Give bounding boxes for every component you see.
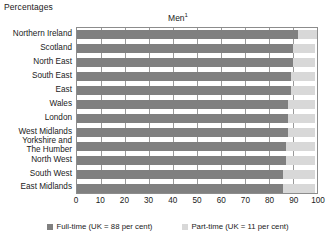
x-axis-ticks: 0102030405060708090100 xyxy=(76,196,318,208)
bar-segment-part-time xyxy=(293,58,315,67)
legend-item[interactable]: Full-time (UK = 88 per cent) xyxy=(47,222,152,231)
bar-row xyxy=(77,72,317,81)
x-axis-tick-label: 60 xyxy=(217,196,226,205)
units-label: Percentages xyxy=(4,2,53,12)
bar-segment-full-time xyxy=(77,86,291,95)
bar-segment-part-time xyxy=(291,86,315,95)
bar-row xyxy=(77,30,317,39)
x-axis-tick-label: 30 xyxy=(144,196,153,205)
y-axis-label: Wales xyxy=(0,99,72,108)
y-axis-label: East Midlands xyxy=(0,182,72,191)
x-axis-tick-label: 100 xyxy=(311,196,325,205)
legend-label: Full-time (UK = 88 per cent) xyxy=(56,222,152,231)
bar-segment-full-time xyxy=(77,44,293,53)
bar-segment-full-time xyxy=(77,156,286,165)
bar-segment-full-time xyxy=(77,58,293,67)
chart-title: Men1 xyxy=(0,12,336,23)
x-axis-tick-label: 90 xyxy=(289,196,298,205)
bar-segment-part-time xyxy=(288,100,314,109)
y-axis-label: London xyxy=(0,113,72,122)
bar-row xyxy=(77,44,317,53)
bar-segment-part-time xyxy=(286,142,315,151)
bar-segment-full-time xyxy=(77,170,283,179)
y-axis-label: South West xyxy=(0,169,72,178)
bar-row xyxy=(77,184,317,193)
chart-container: Percentages Men1 Northern IrelandScotlan… xyxy=(0,0,336,242)
y-axis-label: South East xyxy=(0,71,72,80)
x-axis-tick-label: 70 xyxy=(241,196,250,205)
legend-item[interactable]: Part-time (UK = 11 per cent) xyxy=(182,222,288,231)
bar-segment-part-time xyxy=(283,170,314,179)
bar-row xyxy=(77,86,317,95)
bar-segment-full-time xyxy=(77,30,298,39)
bar-segment-part-time xyxy=(288,114,314,123)
y-axis-label: Yorkshire and The Humber xyxy=(0,136,72,154)
x-axis-tick-label: 0 xyxy=(74,196,79,205)
bar-segment-full-time xyxy=(77,100,288,109)
bar-segment-full-time xyxy=(77,142,286,151)
plot-wrapper xyxy=(76,27,318,194)
bar-row xyxy=(77,114,317,123)
y-axis-label: North East xyxy=(0,57,72,66)
x-axis-tick-label: 80 xyxy=(265,196,274,205)
bar-row xyxy=(77,100,317,109)
bar-row xyxy=(77,128,317,137)
bar-row xyxy=(77,58,317,67)
legend-label: Part-time (UK = 11 per cent) xyxy=(191,222,288,231)
bar-segment-full-time xyxy=(77,128,288,137)
legend-swatch-part-time xyxy=(182,224,188,230)
bar-rows xyxy=(77,28,317,193)
bar-segment-part-time xyxy=(286,156,315,165)
chart-legend: Full-time (UK = 88 per cent)Part-time (U… xyxy=(0,222,336,231)
bar-segment-part-time xyxy=(288,128,314,137)
bar-segment-full-time xyxy=(77,184,283,193)
chart-title-footnote: 1 xyxy=(185,12,188,18)
y-axis-label: West Midlands xyxy=(0,127,72,136)
chart-title-text: Men xyxy=(168,13,185,23)
bar-row xyxy=(77,156,317,165)
x-axis-tick-label: 40 xyxy=(168,196,177,205)
x-axis-tick-label: 20 xyxy=(120,196,129,205)
bar-segment-part-time xyxy=(291,72,315,81)
bar-segment-full-time xyxy=(77,72,291,81)
y-axis-labels: Northern IrelandScotlandNorth EastSouth … xyxy=(0,27,72,194)
legend-swatch-full-time xyxy=(47,224,53,230)
x-axis-tick-label: 50 xyxy=(192,196,201,205)
y-axis-label: North West xyxy=(0,155,72,164)
y-axis-label: Scotland xyxy=(0,43,72,52)
bar-segment-part-time xyxy=(283,184,314,193)
y-axis-label: Northern Ireland xyxy=(0,29,72,38)
x-axis-tick-label: 10 xyxy=(96,196,105,205)
plot-area xyxy=(76,27,318,194)
bar-segment-part-time xyxy=(298,30,317,39)
bar-row xyxy=(77,142,317,151)
y-axis-label: East xyxy=(0,85,72,94)
bar-segment-full-time xyxy=(77,114,288,123)
bar-row xyxy=(77,170,317,179)
bar-segment-part-time xyxy=(293,44,315,53)
